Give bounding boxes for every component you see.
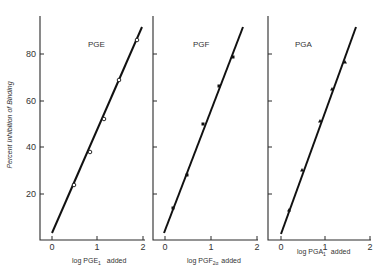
x-tick-label-0: 0 (162, 242, 167, 252)
panel-pga: 0 1 2 log PGA1added PGA (268, 16, 373, 257)
x-axis-label: log PGF2αadded (187, 257, 241, 266)
panel-title: PGF (193, 40, 210, 49)
y-tick-label-80: 80 (26, 49, 36, 59)
data-point-filled-square (172, 207, 175, 210)
x-tick-label-0: 0 (278, 242, 283, 252)
data-point-open-circle (72, 183, 76, 187)
data-point-open-circle (117, 78, 121, 82)
y-tick-label-40: 40 (26, 142, 36, 152)
y-axis-label: Percent Inhibition of Binding (6, 81, 14, 168)
panel-title: PGE (88, 40, 105, 49)
chart-figure: Percent Inhibition of Binding 80 60 40 2… (0, 0, 384, 272)
regression-line (164, 27, 243, 233)
data-point-open-circle (135, 38, 139, 42)
data-point-filled-square (202, 123, 205, 126)
y-tick-label-20: 20 (26, 189, 36, 199)
x-axis-label: log PGE1added (72, 257, 126, 266)
x-tick-label-0: 0 (49, 242, 54, 252)
panel2-axes (153, 16, 258, 240)
regression-line (52, 27, 142, 233)
x-tick-label-2: 2 (140, 242, 145, 252)
data-point-open-circle (88, 150, 92, 154)
panel1-axes (40, 16, 145, 240)
x-tick-label-1: 1 (94, 242, 99, 252)
panel-pge: 80 60 40 20 0 1 2 log PGE1added PGE (26, 16, 146, 266)
x-tick-label-1: 1 (208, 242, 213, 252)
data-point-filled-square (232, 56, 235, 59)
y-tick-label-60: 60 (26, 96, 36, 106)
data-point-open-circle (102, 117, 106, 121)
x-tick-label-2: 2 (367, 242, 372, 252)
data-point-filled-square (218, 85, 221, 88)
data-point-filled-square (186, 174, 189, 177)
regression-line (281, 27, 356, 234)
panel-pgf: 0 1 2 log PGF2αadded PGF (153, 16, 260, 266)
panel-title: PGA (295, 40, 313, 49)
x-tick-label-2: 2 (254, 242, 259, 252)
